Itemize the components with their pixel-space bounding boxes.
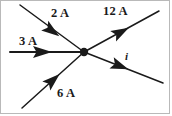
- arrowhead-top-right: [110, 22, 132, 41]
- junction-node: [80, 48, 88, 56]
- label-branch-bottom-right: i: [125, 51, 128, 62]
- arrowhead-top-left: [41, 21, 63, 41]
- junction-diagram-svg: [0, 0, 172, 116]
- label-branch-left: 3 A: [19, 35, 37, 48]
- label-branch-top-right: 12 A: [103, 5, 128, 18]
- current-junction-figure: 2 A 12 A 3 A 6 A i: [0, 0, 172, 116]
- label-branch-bottom-left: 6 A: [57, 87, 75, 100]
- label-branch-top-left: 2 A: [51, 7, 69, 20]
